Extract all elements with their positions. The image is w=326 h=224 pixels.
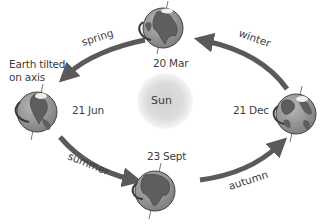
season-label-summer: summer bbox=[66, 150, 111, 178]
date-label-bottom: 23 Sept bbox=[147, 150, 186, 162]
earth-globe-icon bbox=[274, 86, 316, 142]
sun-label: Sun bbox=[151, 94, 172, 107]
date-label-top: 20 Mar bbox=[153, 57, 188, 69]
earth-globe-icon bbox=[139, 1, 183, 54]
season-label-winter: winter bbox=[237, 27, 273, 50]
earth-globe-icon bbox=[133, 163, 175, 219]
season-label-spring: spring bbox=[80, 26, 115, 48]
earth-globe-icon bbox=[16, 84, 57, 140]
orbit-diagram: spring summer autumn winter Earth tilted… bbox=[0, 0, 326, 224]
annotation-line2: on axis bbox=[9, 71, 45, 83]
spring-arrow-icon bbox=[68, 40, 145, 74]
winter-arrow-icon bbox=[206, 41, 287, 89]
date-label-left: 21 Jun bbox=[72, 104, 104, 116]
date-label-right: 21 Dec bbox=[233, 104, 269, 116]
orbit-svg: spring summer autumn winter bbox=[0, 0, 326, 224]
annotation-line1: Earth tilted bbox=[9, 58, 65, 70]
